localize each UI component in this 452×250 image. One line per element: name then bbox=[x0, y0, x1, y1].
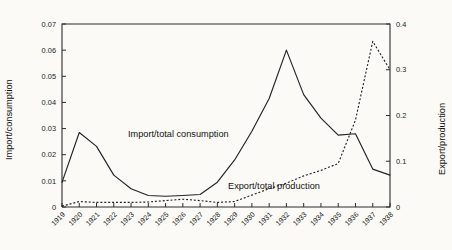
right-axis-title: Export/production bbox=[437, 103, 447, 175]
left-tick-label: 0.02 bbox=[42, 150, 56, 159]
series-label-import: Import/total consumption bbox=[128, 129, 229, 139]
right-tick-label: 0 bbox=[396, 203, 400, 212]
chart-background bbox=[0, 0, 452, 250]
left-tick-label: 0.07 bbox=[42, 20, 56, 29]
right-tick-label: 0.2 bbox=[396, 111, 406, 120]
right-tick-label: 0.1 bbox=[396, 157, 406, 166]
left-tick-label: 0.05 bbox=[42, 72, 56, 81]
dual-axis-line-chart: 00.010.020.030.040.050.060.07 00.10.20.3… bbox=[0, 0, 452, 250]
right-tick-label: 0.4 bbox=[396, 20, 406, 29]
chart-container: 00.010.020.030.040.050.060.07 00.10.20.3… bbox=[0, 0, 452, 250]
left-axis-title: Import/consumption bbox=[4, 79, 14, 160]
left-tick-label: 0.06 bbox=[42, 46, 56, 55]
left-tick-label: 0.03 bbox=[42, 124, 56, 133]
left-tick-label: 0 bbox=[52, 203, 56, 212]
series-label-export: Export/total production bbox=[228, 181, 320, 191]
left-tick-label: 0.01 bbox=[42, 177, 56, 186]
right-tick-label: 0.3 bbox=[396, 65, 406, 74]
left-tick-label: 0.04 bbox=[42, 98, 56, 107]
